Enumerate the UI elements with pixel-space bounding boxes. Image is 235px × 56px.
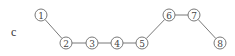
node-2: 2 xyxy=(60,37,72,49)
node-8: 8 xyxy=(214,37,226,49)
node-label: 2 xyxy=(63,39,69,49)
node-label: 1 xyxy=(38,11,44,21)
node-1: 1 xyxy=(35,9,47,21)
panel-label: c xyxy=(11,25,16,39)
node-4: 4 xyxy=(111,37,123,49)
node-label: 7 xyxy=(191,11,197,21)
node-3: 3 xyxy=(86,37,98,49)
node-5: 5 xyxy=(136,37,148,49)
node-label: 4 xyxy=(114,39,120,49)
node-label: 5 xyxy=(139,39,145,49)
node-label: 6 xyxy=(166,11,172,21)
path-diagram: c 12345678 xyxy=(0,0,235,56)
node-6: 6 xyxy=(163,9,175,21)
edge-7-8 xyxy=(198,19,216,38)
edge-5-6 xyxy=(146,19,165,38)
node-7: 7 xyxy=(188,9,200,21)
edge-1-2 xyxy=(45,19,62,38)
node-label: 8 xyxy=(217,39,223,49)
node-label: 3 xyxy=(89,39,95,49)
